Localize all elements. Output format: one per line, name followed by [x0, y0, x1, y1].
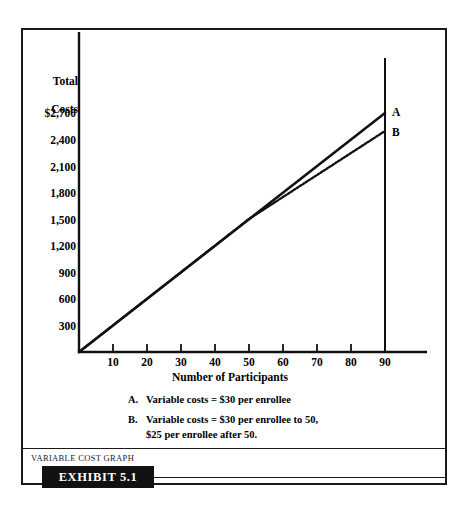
- x-tick-label-50: 50: [234, 356, 264, 368]
- x-tick-label-20: 20: [132, 356, 162, 368]
- legend-body-b: Variable costs = $30 per enrollee to 50,…: [146, 412, 418, 443]
- y-tick-label-1800: 1,800: [16, 187, 76, 199]
- exhibit-caption: Variable Cost Graph: [31, 453, 134, 463]
- y-axis-title-line1: Total: [53, 75, 78, 87]
- caption-divider: [21, 448, 447, 449]
- legend-item-a: A. Variable costs = $30 per enrollee: [128, 392, 418, 408]
- legend-key-b: B.: [128, 412, 146, 428]
- exhibit-badge: EXHIBIT 5.1: [42, 466, 154, 488]
- x-tick-label-10: 10: [98, 356, 128, 368]
- legend: A. Variable costs = $30 per enrollee B. …: [128, 392, 418, 447]
- legend-a-line1: Variable costs = $30 per enrollee: [146, 392, 418, 408]
- legend-item-b: B. Variable costs = $30 per enrollee to …: [128, 412, 418, 443]
- y-tick-label-2400: 2,400: [16, 134, 76, 146]
- series-b-label: B: [392, 126, 400, 138]
- y-tick-label-2700: $2,700: [16, 107, 76, 119]
- y-tick-label-1200: 1,200: [16, 240, 76, 252]
- y-tick-label-1500: 1,500: [16, 214, 76, 226]
- legend-body-a: Variable costs = $30 per enrollee: [146, 392, 418, 408]
- x-tick-label-60: 60: [268, 356, 298, 368]
- x-tick-label-30: 30: [166, 356, 196, 368]
- x-tick-label-70: 70: [302, 356, 332, 368]
- legend-b-line2: $25 per enrollee after 50.: [146, 427, 418, 443]
- legend-key-a: A.: [128, 392, 146, 408]
- legend-b-line1: Variable costs = $30 per enrollee to 50,: [146, 412, 418, 428]
- y-tick-label-2100: 2,100: [16, 161, 76, 173]
- y-tick-label-600: 600: [16, 293, 76, 305]
- series-a-label: A: [392, 106, 400, 118]
- x-tick-label-80: 80: [336, 356, 366, 368]
- y-tick-label-300: 300: [16, 320, 76, 332]
- exhibit-page: Total Costs $2,700 2,400 2,100 1,800 1,5…: [0, 0, 470, 511]
- y-tick-label-900: 900: [16, 267, 76, 279]
- x-tick-label-90: 90: [370, 356, 400, 368]
- x-axis-title: Number of Participants: [110, 371, 350, 383]
- x-tick-label-40: 40: [200, 356, 230, 368]
- badge-rule: [150, 477, 447, 478]
